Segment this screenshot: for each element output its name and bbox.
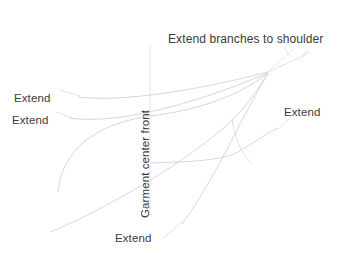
extend-bottom-label: Extend: [115, 232, 151, 245]
branch-right-lower-curve: [150, 128, 277, 163]
branch-mid-curve: [58, 73, 268, 192]
branch-steep-curve: [182, 73, 268, 224]
branch-upper-curve: [78, 72, 268, 98]
leader-lower-left-line: [56, 112, 72, 118]
branch-lower-curve: [50, 73, 268, 232]
title-label: Extend branches to shoulder: [168, 33, 323, 46]
center-front-axis-label: Garment center front: [139, 110, 152, 218]
extend-lower-left-label: Extend: [12, 114, 48, 127]
extend-right-label: Extend: [284, 106, 320, 119]
leader-title-b-line: [301, 49, 308, 60]
branch-right-sweep-curve: [232, 118, 252, 164]
extend-upper-left-label: Extend: [14, 92, 50, 105]
leader-bottom-line: [163, 221, 184, 238]
leader-upper-left-line: [60, 90, 80, 96]
branch-second-curve: [70, 73, 268, 119]
diagram-canvas: Extend branches to shoulder Extend Exten…: [0, 0, 343, 254]
